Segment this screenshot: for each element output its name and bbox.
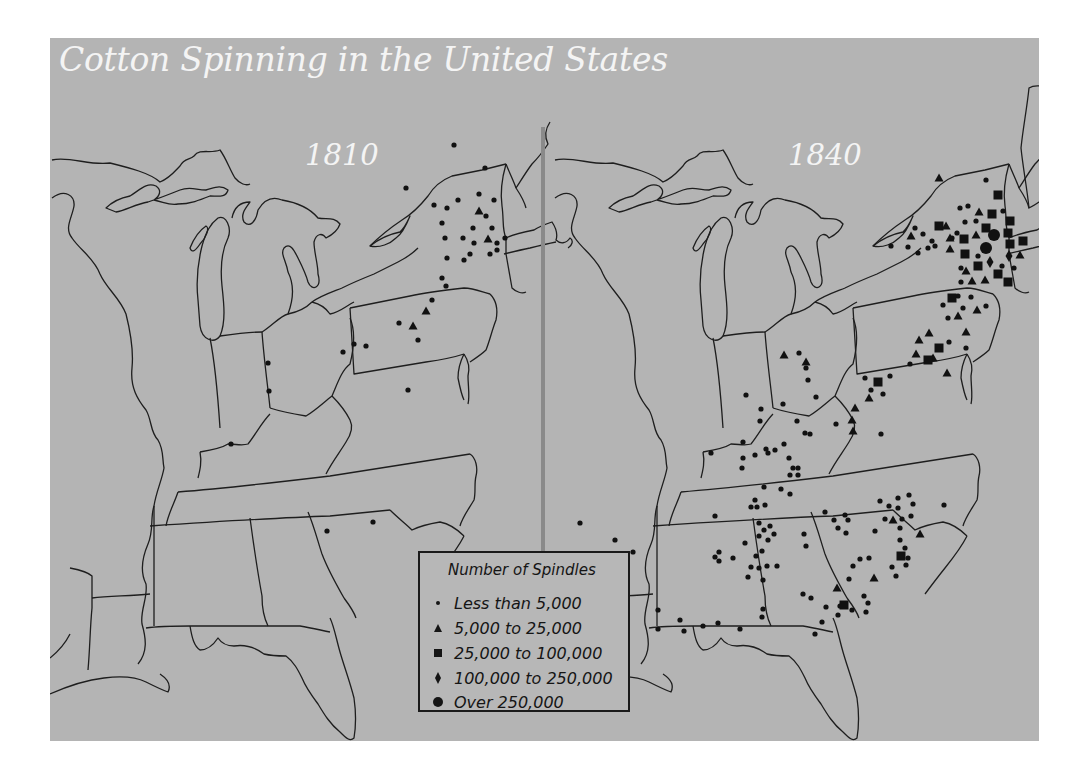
map-figure: Cotton Spinning in the United States	[50, 38, 1039, 741]
year-label-1810: 1810	[305, 138, 379, 172]
legend-item-small: Less than 5,000	[428, 591, 582, 615]
diamond-icon	[428, 671, 448, 685]
year-label-1840: 1840	[788, 138, 862, 172]
large-circle-icon	[428, 696, 448, 708]
legend: Number of Spindles Less than 5,000 5,000…	[418, 551, 630, 712]
legend-label: Less than 5,000	[454, 594, 582, 613]
markers-1810	[228, 142, 507, 533]
legend-label: 25,000 to 100,000	[454, 644, 602, 663]
legend-label: 5,000 to 25,000	[454, 619, 582, 638]
map-divider	[541, 127, 545, 568]
legend-label: Over 250,000	[454, 693, 564, 712]
square-icon	[428, 648, 448, 658]
legend-item-large-circle: Over 250,000	[428, 690, 564, 714]
small-dot-icon	[428, 598, 448, 608]
legend-title: Number of Spindles	[448, 561, 596, 579]
legend-item-square: 25,000 to 100,000	[428, 641, 602, 665]
legend-item-triangle: 5,000 to 25,000	[428, 616, 582, 640]
legend-item-diamond: 100,000 to 250,000	[428, 666, 613, 690]
legend-label: 100,000 to 250,000	[454, 669, 613, 688]
triangle-icon	[428, 623, 448, 633]
